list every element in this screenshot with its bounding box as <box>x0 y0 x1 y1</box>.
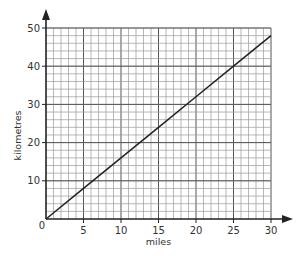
y-tick-label: 20 <box>27 137 40 148</box>
x-tick-label: 15 <box>152 225 165 236</box>
x-axis-label: miles <box>146 236 171 247</box>
conversion-chart: 1020304050510152025300 miles kilometres <box>0 0 303 261</box>
y-tick-label: 30 <box>27 99 40 110</box>
x-tick-label: 30 <box>265 225 278 236</box>
x-tick-label: 10 <box>115 225 128 236</box>
origin-label: 0 <box>39 220 45 231</box>
y-tick-label: 10 <box>27 175 40 186</box>
x-tick-label: 25 <box>227 225 240 236</box>
y-tick-label: 50 <box>27 23 40 34</box>
y-axis-arrow-icon <box>42 9 50 20</box>
y-axis-label: kilometres <box>12 111 23 161</box>
x-axis-arrow-icon <box>282 215 293 223</box>
y-tick-label: 40 <box>27 61 40 72</box>
x-tick-label: 20 <box>190 225 203 236</box>
grid <box>46 28 271 219</box>
x-tick-label: 5 <box>80 225 86 236</box>
